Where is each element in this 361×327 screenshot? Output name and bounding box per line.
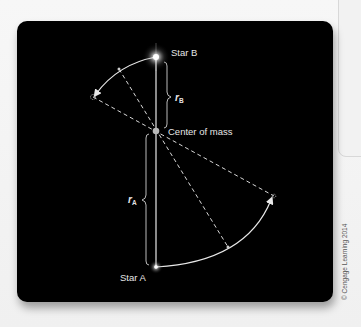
r-a-brace xyxy=(142,134,149,265)
star-b-icon xyxy=(153,54,159,60)
star-a-intermediate-position xyxy=(227,246,230,249)
r-b-label: rB xyxy=(175,92,184,104)
binary-star-orbit-diagram: Star B Center of mass Star A rB rA xyxy=(0,0,361,327)
center-of-mass-label: Center of mass xyxy=(168,126,233,137)
r-b-label-sub: B xyxy=(179,97,184,104)
r-a-label-sub: A xyxy=(132,199,137,206)
dashed-line-intermediate xyxy=(119,69,228,247)
copyright-notice: © Cengage Learning 2014 xyxy=(341,224,348,300)
r-a-label: rA xyxy=(128,194,137,206)
star-a-label: Star A xyxy=(120,272,147,283)
star-b-label: Star B xyxy=(171,47,197,58)
dashed-line-final xyxy=(93,97,274,196)
star-a-orbit-arc xyxy=(156,200,271,267)
page: Star B Center of mass Star A rB rA © Cen… xyxy=(0,0,361,327)
r-b-brace xyxy=(164,62,171,128)
star-b-intermediate-position xyxy=(118,68,121,71)
star-a-icon xyxy=(154,265,158,269)
center-of-mass-marker xyxy=(153,128,160,135)
